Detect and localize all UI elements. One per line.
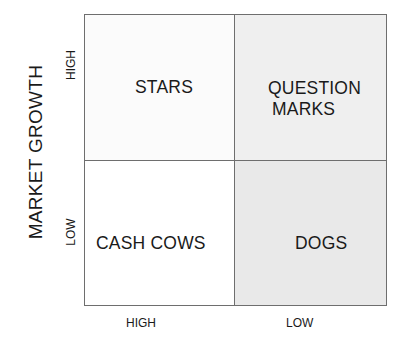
quadrant-label-dogs: DOGS	[295, 233, 347, 254]
quadrant-label-question-marks: QUESTION MARKS	[268, 78, 361, 120]
quadrant-cash-cows: CASH COWS	[85, 161, 235, 305]
y-tick-low: LOW	[64, 218, 78, 245]
x-tick-low: LOW	[286, 316, 313, 330]
bcg-matrix: STARS QUESTION MARKS CASH COWS DOGS	[84, 14, 387, 306]
quadrant-dogs: DOGS	[235, 161, 386, 305]
quadrant-label-line-1: QUESTION	[268, 78, 361, 99]
quadrant-stars: STARS	[85, 15, 235, 161]
y-axis-title: MARKET GROWTH	[25, 65, 47, 240]
y-tick-high: HIGH	[64, 50, 78, 80]
quadrant-label-line-2: MARKS	[268, 99, 361, 120]
quadrant-label-stars: STARS	[135, 77, 193, 98]
quadrant-question-marks: QUESTION MARKS	[235, 15, 386, 161]
quadrant-label-cash-cows: CASH COWS	[96, 233, 206, 254]
x-tick-high: HIGH	[126, 316, 156, 330]
